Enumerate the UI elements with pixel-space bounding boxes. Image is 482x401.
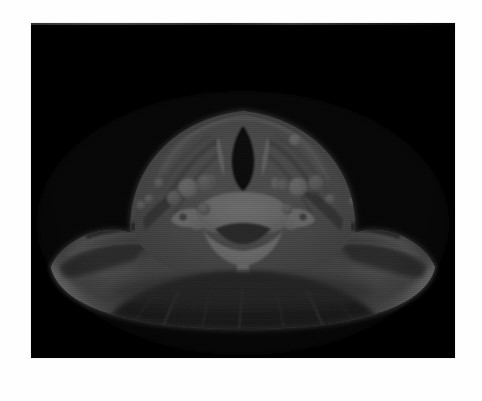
caption-area: B	[0, 358, 482, 401]
figure-root: B	[0, 0, 482, 401]
ct-image-panel[interactable]	[31, 23, 455, 358]
axial-ct-neck-image	[31, 23, 455, 358]
